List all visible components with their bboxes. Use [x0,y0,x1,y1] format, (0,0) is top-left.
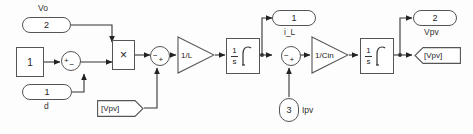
integrator-voltage-numerator: 1 [366,47,370,55]
output-port-vpv[interactable]: 2 [413,10,457,26]
gain-block-inductor[interactable]: 1/L [177,36,215,74]
integrator-current-fraction: 1 s [231,47,238,66]
input-port-vo-label: Vo [38,3,48,13]
output-port-vpv-label: Vpv [424,27,439,37]
sum-current-sign-bottom: + [290,56,295,64]
constant-block-one[interactable]: 1 [16,47,44,77]
from-tag-vpv[interactable]: [Vpv] [97,100,144,117]
sum-voltage-sign-bottom: + [159,56,164,64]
sum-duty-sign-bottom: − [70,61,75,69]
product-block-symbol: × [120,48,127,62]
sum-voltage-sign-left: − [153,52,158,60]
input-port-vo-number: 2 [44,20,49,30]
from-tag-vpv-label: [Vpv] [97,104,119,113]
integrator-current-denominator: s [233,58,237,66]
sum-duty-sign-left: + [64,57,69,65]
input-port-vo[interactable]: 2 [22,17,71,33]
sum-block-voltage[interactable]: − + [150,46,170,66]
input-port-ipv[interactable]: 3 [279,98,299,122]
output-port-vpv-number: 2 [432,13,437,23]
output-port-il-label: i_L [284,27,295,37]
product-block[interactable]: × [112,40,135,70]
input-port-d-number: 1 [44,87,49,97]
output-port-il-number: 1 [291,13,296,23]
gain-block-inductor-value: 1/L [177,51,192,60]
integrator-voltage-denominator: s [367,58,371,66]
sum-block-duty[interactable]: + − [61,51,81,71]
input-port-d[interactable]: 1 [22,84,72,100]
goto-tag-vpv-label: [Vpv] [414,51,442,60]
output-port-il[interactable]: 1 [272,10,316,26]
input-port-ipv-label: Ipv [302,105,313,115]
block-diagram-canvas: 2 Vo 1 1 d + − × [Vpv] − + 1/L 1 [0,0,473,134]
integral-sign-icon [374,45,388,67]
integrator-block-voltage[interactable]: 1 s [360,38,394,74]
integrator-current-numerator: 1 [232,47,236,55]
integrator-voltage-fraction: 1 s [365,47,372,66]
input-port-d-label: d [44,101,49,111]
gain-block-capacitor-value: 1/Cin [311,51,334,60]
gain-block-capacitor[interactable]: 1/Cin [311,36,349,74]
sum-block-current[interactable]: − + [281,46,301,66]
constant-block-value: 1 [27,57,33,68]
integral-sign-icon [240,45,254,67]
sum-current-sign-left: − [284,52,289,60]
goto-tag-vpv[interactable]: [Vpv] [414,47,461,64]
integrator-block-current[interactable]: 1 s [226,38,260,74]
input-port-ipv-number: 3 [286,105,291,115]
